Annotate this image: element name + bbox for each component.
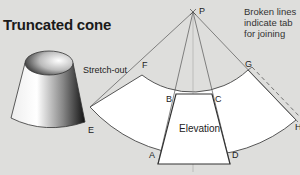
point-g-label: G xyxy=(245,59,252,69)
point-p-label: P xyxy=(199,6,205,16)
point-c-label: C xyxy=(215,94,222,104)
point-e-label: E xyxy=(88,125,94,135)
elevation-label: Elevation xyxy=(179,123,220,134)
point-h-label: H xyxy=(295,122,300,132)
note-text: Broken linesindicate tabfor joining xyxy=(244,6,296,39)
page-title: Truncated cone xyxy=(3,16,111,33)
point-b-label: B xyxy=(166,94,172,104)
point-f-label: F xyxy=(142,60,148,70)
point-a-label: A xyxy=(149,150,155,160)
point-d-label: D xyxy=(232,150,239,160)
stretch-out-label: Stretch-out xyxy=(83,65,127,75)
cone-illustration xyxy=(11,51,85,128)
